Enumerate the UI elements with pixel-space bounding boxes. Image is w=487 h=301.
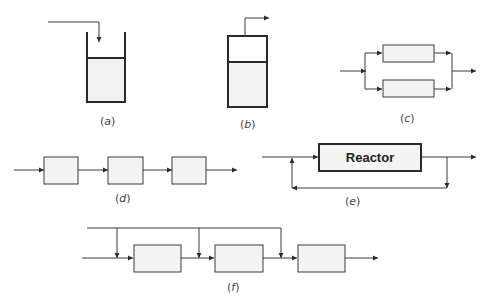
diagram-canvas: (a) (b) (c) (d) Reactor xyxy=(0,0,487,301)
reactor-box xyxy=(383,45,434,62)
vessel-liquid xyxy=(228,62,267,107)
panel-f: (f) xyxy=(82,228,378,294)
reactor-label: Reactor xyxy=(346,150,394,165)
panel-a: (a) xyxy=(48,22,125,128)
reactor-box xyxy=(215,245,263,272)
panel-b: (b) xyxy=(228,18,269,131)
panel-c-label: (c) xyxy=(400,112,415,125)
panel-d: (d) xyxy=(14,157,237,205)
reactor-box xyxy=(108,157,143,184)
panel-c: (c) xyxy=(340,45,476,125)
feed-pipe-arrow xyxy=(48,22,99,42)
reactor-box xyxy=(298,245,345,272)
reactor-box xyxy=(383,80,434,97)
reactor-box xyxy=(172,157,206,184)
reactor-box xyxy=(44,157,78,184)
panel-d-label: (d) xyxy=(115,192,131,205)
reactor-box xyxy=(134,245,181,272)
panel-e-label: (e) xyxy=(345,195,360,208)
panel-b-label: (b) xyxy=(240,118,256,131)
vapor-outlet-arrow xyxy=(245,18,269,36)
tank-liquid xyxy=(87,58,125,102)
panel-a-label: (a) xyxy=(100,115,115,128)
panel-e: Reactor (e) xyxy=(262,144,476,208)
panel-f-label: (f) xyxy=(227,281,239,294)
